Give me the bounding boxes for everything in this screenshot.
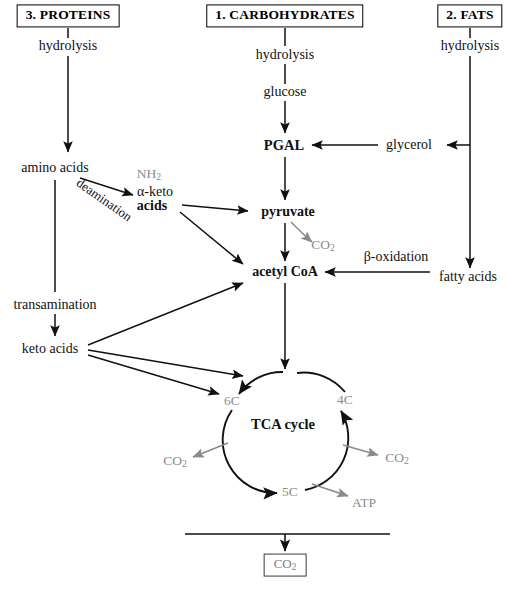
- label-atp: ATP: [352, 496, 376, 510]
- label-co2-left: CO2: [163, 454, 187, 469]
- label-glycerol: glycerol: [386, 138, 432, 152]
- arrow-keto-acids-to-acetyl-coa: [88, 283, 243, 345]
- tca-arc-top-to-6c: [239, 372, 283, 394]
- arrow-alpha-keto-acids-to-pyruvate: [182, 205, 248, 211]
- tca-arc-4c-to-top: [297, 373, 345, 392]
- arrow-pyruvate-to-co2: [291, 222, 312, 242]
- arrow-tca-to-co2-right: [343, 445, 378, 455]
- label-glucose: glucose: [264, 85, 307, 99]
- label-keto-acids: keto acids: [22, 342, 78, 356]
- label-hydrolysis-fats: hydrolysis: [441, 39, 499, 53]
- co2-output-box[interactable]: CO2: [264, 554, 307, 577]
- label-hydrolysis-proteins: hydrolysis: [39, 39, 97, 53]
- label-fatty-acids: fatty acids: [439, 270, 497, 284]
- header-box-fats[interactable]: 2. FATS: [437, 4, 502, 27]
- label-tca-cycle: TCA cycle: [251, 417, 315, 432]
- label-alpha-keto-acids: acids: [137, 199, 167, 213]
- label-amino-acids: amino acids: [21, 161, 88, 175]
- label-pgal: PGAL: [264, 138, 304, 153]
- label-acetyl-coa: acetyl CoA: [252, 265, 318, 279]
- label-carbon-6c: 6C: [224, 394, 240, 408]
- label-carbon-4c: 4C: [337, 393, 353, 407]
- arrow-keto-acids-to-6c: [88, 355, 219, 394]
- label-beta-oxidation: β-oxidation: [364, 250, 429, 264]
- label-hydrolysis-carbohydrates: hydrolysis: [256, 48, 314, 62]
- label-alpha-keto: α-keto: [137, 185, 173, 199]
- header-box-carbohydrates[interactable]: 1. CARBOHYDRATES: [206, 4, 363, 27]
- label-deamination: deamination: [73, 175, 135, 225]
- label-carbon-5c: 5C: [282, 485, 298, 499]
- label-pyruvate: pyruvate: [261, 205, 315, 219]
- label-co2-right: CO2: [385, 451, 409, 466]
- label-nh2: NH2: [137, 167, 161, 182]
- arrow-alpha-keto-acids-to-acetyl-coa: [180, 212, 243, 264]
- label-co2-pyruvate: CO2: [311, 238, 335, 253]
- metabolism-diagram: 3. PROTEINS 1. CARBOHYDRATES 2. FATS hyd…: [0, 0, 509, 591]
- label-transamination: transamination: [13, 298, 96, 312]
- arrow-tca-to-co2-left: [193, 443, 228, 457]
- header-box-proteins[interactable]: 3. PROTEINS: [17, 4, 120, 27]
- arrow-layer: [0, 0, 509, 591]
- arrow-keto-acids-to-tca-top: [88, 350, 243, 376]
- arrow-5c-to-atp: [312, 484, 348, 496]
